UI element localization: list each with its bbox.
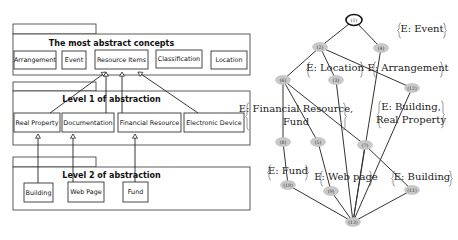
node-label: (13)	[348, 220, 358, 225]
node-label: (8)	[280, 140, 287, 145]
lattice-node-7[interactable]: (7)	[358, 141, 373, 150]
node-label: (10)	[283, 183, 293, 188]
class-fund[interactable]: Fund	[123, 182, 148, 202]
extent-annotation-e-web-page: E: Web page	[314, 171, 378, 186]
annotation-text: E: Financial Resource,	[239, 103, 353, 114]
package-title: Level 1 of abstraction	[62, 95, 161, 104]
node-label: (3)	[333, 78, 340, 83]
lattice-node-3[interactable]: (3)	[329, 76, 344, 85]
extent-annotation-e-fund: E: Fund	[268, 165, 309, 180]
class-label: Documentation	[63, 119, 112, 127]
annotation-text: E: Arrangement	[367, 62, 448, 73]
class-arrangement[interactable]: Arrangement	[14, 51, 57, 69]
lattice-edge	[353, 145, 365, 222]
node-label: (12)	[407, 86, 417, 91]
lattice-node-11[interactable]: (11)	[405, 186, 420, 195]
class-label: Financial Resource	[120, 119, 179, 127]
extent-annotation-e-financial-resource-fund: E: Financial Resource,Fund	[239, 103, 353, 130]
node-label: (4)	[378, 46, 385, 51]
node-label: (2)	[317, 45, 324, 50]
class-web-page[interactable]: Web Page	[68, 182, 104, 202]
lattice-node-8[interactable]: (8)	[276, 138, 291, 147]
uml-package-diagram: The most abstract conceptsArrangementEve…	[13, 24, 250, 210]
annotation-text: E: Location	[306, 62, 364, 73]
annotation-text: Real Property	[376, 114, 446, 125]
class-financial-resource[interactable]: Financial Resource	[118, 113, 181, 132]
lattice-node-1[interactable]: (1)	[346, 15, 362, 26]
lattice-edge	[318, 142, 331, 191]
class-electronic-device[interactable]: Electronic Device	[184, 113, 244, 132]
package-the-most-abstract-concepts: The most abstract conceptsArrangementEve…	[13, 24, 250, 75]
class-label: Web Page	[70, 188, 102, 196]
class-label: Real Property	[16, 119, 59, 127]
class-classification[interactable]: Classification	[156, 50, 202, 68]
annotation-text: E: Fund	[268, 165, 309, 176]
class-label: Location	[215, 56, 242, 64]
class-real-property[interactable]: Real Property	[14, 113, 60, 132]
lattice-node-2[interactable]: (2)	[313, 43, 328, 52]
class-label: Event	[65, 56, 84, 64]
node-label: (9)	[328, 189, 335, 194]
package-title: Level 2 of abstraction	[62, 171, 161, 180]
lattice-node-4[interactable]: (4)	[374, 44, 389, 53]
lattice-edge	[283, 142, 288, 185]
class-event[interactable]: Event	[62, 51, 86, 69]
lattice-edge	[353, 190, 412, 222]
lattice-edge	[365, 145, 412, 190]
annotation-text: E: Building	[394, 171, 451, 182]
annotation-text: E: Web page	[314, 171, 378, 182]
extent-annotation-e-location: E: Location	[306, 62, 364, 77]
lattice-edge	[336, 80, 353, 222]
lattice-node-9[interactable]: (9)	[324, 187, 339, 196]
lattice-node-6[interactable]: (6)	[276, 76, 291, 85]
class-label: Arrangement	[14, 56, 57, 64]
lattice-edge	[288, 185, 353, 222]
concept-lattice: E: EventE: LocationE: ArrangementE: Fina…	[239, 15, 453, 227]
extent-annotation-e-building: E: Building	[392, 171, 453, 186]
lattice-node-13[interactable]: (13)	[346, 218, 361, 227]
package-level-2-of-abstraction: Level 2 of abstractionBuildingWeb PageFu…	[13, 157, 250, 210]
class-label: Classification	[158, 55, 200, 63]
lattice-node-12[interactable]: (12)	[405, 84, 420, 93]
package-title: The most abstract concepts	[49, 39, 175, 48]
annotation-text: E: Building,	[381, 101, 441, 112]
extent-annotation-e-building-real-property: E: Building,Real Property	[376, 101, 446, 128]
annotation-text: E: Event	[400, 23, 443, 34]
class-documentation[interactable]: Documentation	[62, 113, 114, 132]
class-resource-items[interactable]: Resource Items	[95, 50, 148, 69]
class-label: Resource Items	[97, 56, 147, 64]
package-tab	[13, 82, 96, 91]
annotation-text: Fund	[283, 116, 310, 127]
lattice-node-5[interactable]: (5)	[311, 138, 326, 147]
node-label: (6)	[280, 78, 287, 83]
node-label: (1)	[351, 18, 358, 23]
class-label: Electronic Device	[186, 119, 241, 127]
class-location[interactable]: Location	[211, 51, 247, 69]
node-label: (11)	[407, 188, 417, 193]
package-tab	[13, 157, 96, 167]
node-label: (5)	[315, 140, 322, 145]
lattice-node-10[interactable]: (10)	[281, 181, 296, 190]
extent-annotation-e-event: E: Event	[398, 23, 447, 38]
package-level-1-of-abstraction: Level 1 of abstractionReal PropertyDocum…	[13, 82, 250, 145]
node-label: (7)	[362, 143, 369, 148]
package-tab	[13, 24, 96, 34]
diagram-canvas: The most abstract conceptsArrangementEve…	[0, 0, 458, 240]
class-label: Building	[26, 189, 52, 197]
class-label: Fund	[128, 188, 143, 196]
class-building[interactable]: Building	[24, 183, 53, 202]
extent-annotation-e-arrangement: E: Arrangement	[367, 62, 448, 77]
